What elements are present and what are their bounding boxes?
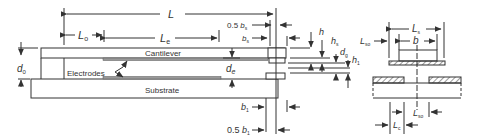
label-Ls: Ls — [412, 23, 421, 35]
label-d0: d0 — [17, 63, 27, 75]
label-bs: bs — [242, 34, 249, 44]
label-electrodes: Electrodes — [67, 69, 105, 78]
bottom-electrode — [103, 77, 221, 80]
label-Lso-right: Lso — [413, 108, 424, 119]
label-de: de — [226, 63, 236, 75]
diagram-canvas: L Lo Le Cantilever Electrodes Substrate … — [0, 0, 479, 139]
label-cantilever: Cantilever — [145, 49, 181, 58]
label-b1: b1 — [241, 102, 249, 113]
label-h: h — [319, 27, 324, 37]
label-hs: hs — [331, 36, 339, 47]
label-Le: Le — [160, 32, 170, 45]
cantilever-diagram: L Lo Le Cantilever Electrodes Substrate … — [0, 0, 479, 139]
top-electrode — [103, 58, 268, 61]
label-Lso-left: Lso — [360, 36, 371, 47]
label-half-b1: 0.5 b1 — [227, 125, 250, 136]
label-h1: h1 — [352, 55, 360, 66]
label-b: b — [413, 35, 419, 46]
label-dg: dg — [340, 47, 348, 58]
cantilever-tip-dimple — [269, 58, 285, 63]
label-substrate: Substrate — [145, 86, 180, 95]
label-L0: Lo — [78, 29, 88, 42]
cantilever-tip — [268, 48, 286, 58]
label-half-bs: 0.5 bs — [227, 21, 248, 31]
label-Lc: Lc — [393, 120, 401, 131]
label-L: L — [168, 8, 174, 20]
